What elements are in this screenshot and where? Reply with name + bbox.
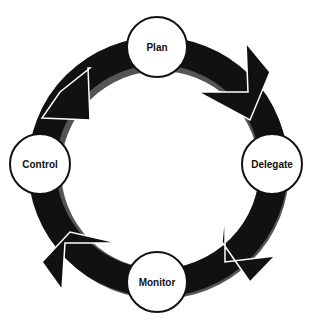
node-label: Plan (146, 42, 167, 53)
node-plan: Plan (126, 16, 188, 78)
node-label: Delegate (251, 159, 293, 170)
node-label: Control (22, 159, 58, 170)
node-label: Monitor (139, 277, 176, 288)
node-monitor: Monitor (126, 251, 188, 313)
node-control: Control (9, 133, 71, 195)
node-delegate: Delegate (241, 133, 303, 195)
